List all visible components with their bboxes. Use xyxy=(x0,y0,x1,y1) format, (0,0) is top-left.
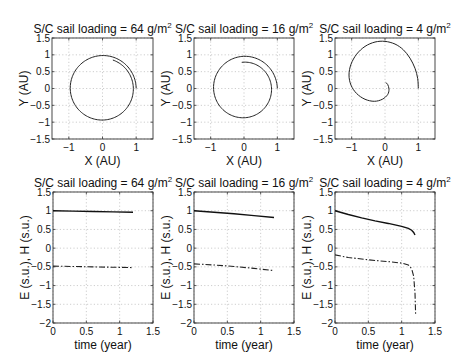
y-tick-label: −1.5 xyxy=(30,134,50,145)
x-tick-label: 0 xyxy=(191,326,197,337)
y-tick-label: 1 xyxy=(45,205,51,216)
y-tick-label: 0 xyxy=(186,243,192,254)
x-axis-label: time (year) xyxy=(215,338,272,352)
y-tick-label: −1.5 xyxy=(172,299,192,310)
y-tick-label: 1 xyxy=(327,49,333,60)
y-axis-label: E (s.u.), H (s.u.) xyxy=(18,215,32,300)
y-tick-label: 0.5 xyxy=(319,66,333,77)
y-tick-label: −0.5 xyxy=(313,261,333,272)
chart-title: S/C sail loading = 16 g/m2 xyxy=(175,175,314,190)
y-tick-label: 1 xyxy=(186,49,192,60)
chart-panel-5: 00.511.5−2−1.5−1−0.500.511.5S/C sail loa… xyxy=(159,175,314,352)
y-tick-label: 0.5 xyxy=(178,224,192,235)
y-tick-label: −0.5 xyxy=(31,261,51,272)
x-tick-label: 1 xyxy=(133,142,139,153)
x-tick-label: −1 xyxy=(346,142,358,153)
y-tick-label: 0 xyxy=(327,83,333,94)
x-tick-label: −1 xyxy=(63,142,75,153)
chart-title: S/C sail loading = 64 g/m2 xyxy=(34,175,173,190)
series-trajectory xyxy=(214,56,278,117)
x-tick-label: 1 xyxy=(399,326,405,337)
chart-title: S/C sail loading = 16 g/m2 xyxy=(175,21,314,36)
x-tick-label: 1.5 xyxy=(428,326,442,337)
x-tick-label: 0.5 xyxy=(79,326,93,337)
x-tick-label: 0 xyxy=(241,142,247,153)
y-tick-label: −0.5 xyxy=(30,100,50,111)
x-tick-label: −1 xyxy=(205,142,217,153)
x-tick-label: 0.5 xyxy=(220,326,234,337)
chart-title: S/C sail loading = 4 g/m2 xyxy=(319,21,451,36)
series-h xyxy=(194,264,274,271)
y-tick-label: 0 xyxy=(327,243,333,254)
y-tick-label: 1 xyxy=(186,205,192,216)
y-axis-label: E (s.u.), H (s.u.) xyxy=(159,215,173,300)
y-tick-label: −1 xyxy=(322,280,334,291)
y-tick-label: −0.5 xyxy=(172,261,192,272)
y-tick-label: 0.5 xyxy=(178,66,192,77)
y-tick-label: −1 xyxy=(181,280,193,291)
y-tick-label: −2 xyxy=(322,318,334,329)
y-tick-label: 0 xyxy=(45,243,51,254)
x-tick-label: 1.5 xyxy=(146,326,160,337)
series-trajectory xyxy=(70,56,136,121)
grid xyxy=(52,38,153,139)
y-tick-label: −0.5 xyxy=(313,100,333,111)
y-tick-label: 0.5 xyxy=(319,224,333,235)
x-tick-label: 0 xyxy=(100,142,106,153)
grid xyxy=(335,38,435,139)
chart-panel-1: −101−1.5−1−0.500.511.5S/C sail loading =… xyxy=(17,21,172,168)
y-tick-label: −1.5 xyxy=(313,299,333,310)
x-axis-label: time (year) xyxy=(74,338,131,352)
y-tick-label: 0.5 xyxy=(36,66,50,77)
figure: −101−1.5−1−0.500.511.5S/C sail loading =… xyxy=(0,0,459,363)
y-tick-label: −2 xyxy=(181,318,193,329)
y-tick-label: −1 xyxy=(40,280,52,291)
y-tick-label: 1 xyxy=(327,205,333,216)
series-e xyxy=(194,211,274,218)
x-axis-label: X (AU) xyxy=(226,154,262,168)
x-tick-label: 1.5 xyxy=(287,326,301,337)
chart-title: S/C sail loading = 64 g/m2 xyxy=(33,21,172,36)
x-tick-label: 0 xyxy=(382,142,388,153)
y-tick-label: −0.5 xyxy=(172,100,192,111)
series-h xyxy=(335,255,416,316)
y-axis-label: Y (AU) xyxy=(159,71,173,107)
x-tick-label: 0 xyxy=(332,326,338,337)
y-tick-label: 0 xyxy=(186,83,192,94)
x-tick-label: 0 xyxy=(50,326,56,337)
x-axis-label: X (AU) xyxy=(85,154,121,168)
y-tick-label: 0.5 xyxy=(37,224,51,235)
chart-panel-3: −101−1.5−1−0.500.511.5S/C sail loading =… xyxy=(300,21,451,168)
grid xyxy=(194,38,294,139)
x-axis-label: X (AU) xyxy=(367,154,403,168)
y-tick-label: −2 xyxy=(40,318,52,329)
series-trajectory xyxy=(349,41,418,101)
y-tick-label: 0 xyxy=(44,83,50,94)
y-tick-label: −1 xyxy=(322,117,334,128)
chart-title: S/C sail loading = 4 g/m2 xyxy=(319,175,451,190)
x-tick-label: 1 xyxy=(258,326,264,337)
chart-panel-4: 00.511.5−2−1.5−1−0.500.511.5S/C sail loa… xyxy=(18,175,173,352)
y-tick-label: −1 xyxy=(39,117,51,128)
chart-panel-6: 00.511.5−2−1.5−1−0.500.511.5S/C sail loa… xyxy=(300,175,451,352)
chart-panel-2: −101−1.5−1−0.500.511.5S/C sail loading =… xyxy=(159,21,314,168)
y-tick-label: 1 xyxy=(44,49,50,60)
y-axis-label: E (s.u.), H (s.u.) xyxy=(300,215,314,300)
y-tick-label: −1.5 xyxy=(31,299,51,310)
x-tick-label: 1 xyxy=(416,142,422,153)
y-tick-label: −1.5 xyxy=(313,134,333,145)
x-tick-label: 1 xyxy=(117,326,123,337)
x-tick-label: 1 xyxy=(275,142,281,153)
y-axis-label: Y (AU) xyxy=(17,71,31,107)
x-tick-label: 0.5 xyxy=(361,326,375,337)
y-axis-label: Y (AU) xyxy=(300,71,314,107)
x-axis-label: time (year) xyxy=(356,338,413,352)
series-e xyxy=(335,211,415,235)
y-tick-label: −1.5 xyxy=(172,134,192,145)
y-tick-label: −1 xyxy=(181,117,193,128)
